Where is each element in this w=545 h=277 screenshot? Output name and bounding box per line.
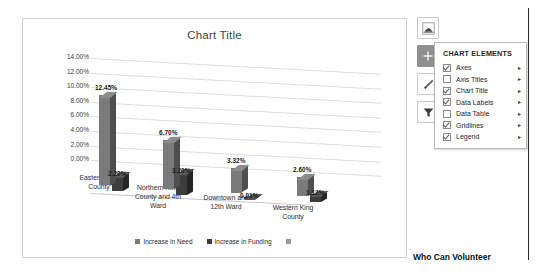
legend-swatch (135, 239, 140, 244)
chart-element-row[interactable]: Axis Titles▸ (435, 74, 526, 86)
bar-side (174, 137, 180, 189)
y-tick-label: 4.00% (71, 126, 89, 133)
legend-swatch (286, 239, 291, 244)
chart-options-icon[interactable] (417, 17, 439, 39)
data-label[interactable]: 0.01% (240, 192, 258, 199)
checkbox-checked-icon[interactable] (443, 64, 451, 72)
legend-item[interactable] (286, 239, 294, 244)
chart-element-row[interactable]: Legend▸ (435, 131, 526, 143)
chart-object[interactable]: Chart Title 14.00%12.00%10.00%8.00%6.00%… (22, 18, 407, 258)
legend-label: Increase in Funding (215, 238, 272, 245)
chevron-right-icon[interactable]: ▸ (518, 76, 521, 82)
data-label[interactable]: 2.20% (108, 170, 126, 177)
chart-element-row[interactable]: Gridlines▸ (435, 120, 526, 132)
chart-element-row[interactable]: Chart Title▸ (435, 85, 526, 97)
chart-element-row[interactable]: Data Labels▸ (435, 97, 526, 109)
legend-swatch (207, 239, 212, 244)
checkbox-checked-icon[interactable] (443, 98, 451, 106)
data-label[interactable]: 6.70% (159, 129, 177, 136)
y-tick-label: 12.00% (67, 68, 89, 75)
chart-element-label: Axes (456, 64, 513, 71)
legend-item[interactable]: Increase in Funding (207, 238, 272, 245)
bar[interactable] (163, 140, 174, 189)
bar-face (163, 140, 174, 189)
chart-element-row[interactable]: Data Table▸ (435, 108, 526, 120)
chart-elements-heading: CHART ELEMENTS (435, 47, 526, 62)
y-tick-label: 0.00% (71, 155, 89, 162)
chart-title[interactable]: Chart Title (23, 29, 406, 41)
chart-elements-list[interactable]: Axes▸Axis Titles▸Chart Title▸Data Labels… (435, 62, 526, 143)
chart-legend[interactable]: Increase in NeedIncrease in Funding (23, 238, 406, 245)
page-divider-rule (528, 8, 529, 260)
checkbox-unchecked-icon[interactable] (443, 75, 451, 83)
chart-element-label: Legend (456, 133, 513, 140)
chart-element-label: Gridlines (456, 122, 513, 129)
bar-group[interactable]: 12.45%2.20% (99, 65, 159, 185)
chart-element-label: Data Table (456, 110, 513, 117)
category-label: Western King County (265, 203, 321, 221)
chart-elements-flyout[interactable]: CHART ELEMENTS Axes▸Axis Titles▸Chart Ti… (434, 42, 527, 149)
y-tick-label: 2.00% (71, 141, 89, 148)
chart-element-label: Axis Titles (456, 76, 513, 83)
checkbox-checked-icon[interactable] (443, 133, 451, 141)
chart-element-row[interactable]: Axes▸ (435, 62, 526, 74)
chevron-right-icon[interactable]: ▸ (518, 122, 521, 128)
chevron-right-icon[interactable]: ▸ (518, 99, 521, 105)
chevron-right-icon[interactable]: ▸ (518, 134, 521, 140)
legend-item[interactable]: Increase in Need (135, 238, 192, 245)
bar[interactable] (231, 168, 242, 192)
data-label[interactable]: 12.45% (95, 84, 117, 91)
checkbox-checked-icon[interactable] (443, 121, 451, 129)
data-label[interactable]: 3.20% (172, 167, 190, 174)
chart-element-label: Chart Title (456, 87, 513, 94)
screenshot-root: Chart Title 14.00%12.00%10.00%8.00%6.00%… (0, 0, 545, 277)
page-caption: Who Can Volunteer (413, 252, 491, 262)
chart-element-label: Data Labels (456, 99, 513, 106)
y-tick-label: 14.00% (67, 53, 89, 60)
chevron-right-icon[interactable]: ▸ (518, 111, 521, 117)
data-label[interactable]: 2.60% (293, 166, 311, 173)
data-label[interactable]: 3.32% (227, 157, 245, 164)
data-label[interactable]: 1.12% (306, 189, 324, 196)
legend-label: Increase in Need (143, 238, 192, 245)
chevron-right-icon[interactable]: ▸ (518, 88, 521, 94)
y-axis-tick-labels: 14.00%12.00%10.00%8.00%6.00%4.00%2.00%0.… (45, 53, 89, 171)
y-tick-label: 6.00% (71, 111, 89, 118)
y-tick-label: 8.00% (71, 97, 89, 104)
checkbox-unchecked-icon[interactable] (443, 110, 451, 118)
checkbox-checked-icon[interactable] (443, 87, 451, 95)
bar-face (231, 168, 242, 192)
chevron-right-icon[interactable]: ▸ (518, 65, 521, 71)
y-tick-label: 10.00% (67, 82, 89, 89)
